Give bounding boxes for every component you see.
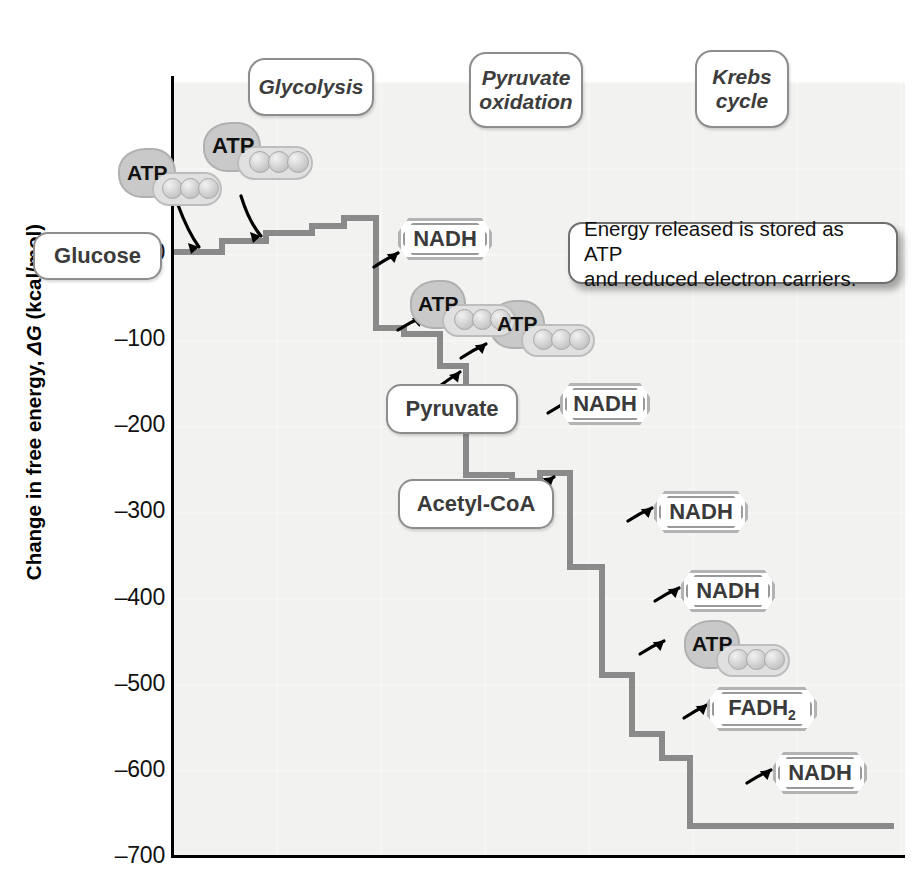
substrate-label-acetyl-coa: Acetyl-CoA xyxy=(398,479,554,529)
plot-background xyxy=(172,82,905,855)
callout-line-1: Energy released is stored as ATP xyxy=(584,217,844,265)
phase-label-krebs-cycle: Krebs cycle xyxy=(695,50,789,128)
y-tick-100: –100 xyxy=(115,325,165,352)
y-tick-400: –400 xyxy=(115,584,165,611)
callout-line-2: and reduced electron carriers. xyxy=(584,267,856,290)
atp-phosphate xyxy=(764,649,785,670)
phase-label-glycolysis: Glycolysis xyxy=(248,58,374,116)
y-tick-600: –600 xyxy=(115,756,165,783)
carrier-nadh-1: NADH xyxy=(398,218,492,260)
carrier-nadh-5: NADH xyxy=(773,752,867,794)
atp-label-2: ATP xyxy=(212,133,254,159)
y-tick-300: –300 xyxy=(115,497,165,524)
carrier-nadh-2: NADH xyxy=(560,383,650,425)
carrier-nadh-5-text: NADH xyxy=(788,760,852,786)
callout-box: Energy released is stored as ATP and red… xyxy=(568,222,898,284)
phase-label-pyruvate-oxidation: Pyruvate oxidation xyxy=(469,52,583,128)
phase-krebs-line1: Krebs xyxy=(712,65,772,89)
substrate-acetylcoa-text: Acetyl-CoA xyxy=(417,492,536,517)
y-tick-700: –700 xyxy=(115,842,165,869)
atp-label-1: ATP xyxy=(127,161,167,185)
carrier-nadh-4: NADH xyxy=(681,570,775,612)
phase-pyruvate-line2: oxidation xyxy=(479,90,572,114)
phase-glycolysis-text: Glycolysis xyxy=(258,75,363,99)
carrier-fadh2-text: FADH2 xyxy=(728,695,796,723)
y-tick-500: –500 xyxy=(115,670,165,697)
atp-label-5: ATP xyxy=(692,632,732,656)
substrate-label-glucose: Glucose xyxy=(33,232,162,280)
atp-phosphate xyxy=(569,329,590,350)
y-tick-200: –200 xyxy=(115,411,165,438)
substrate-label-pyruvate: Pyruvate xyxy=(386,384,518,434)
atp-label-4: ATP xyxy=(497,312,537,336)
atp-phosphate xyxy=(198,178,219,199)
atp-molecule-5: ATP xyxy=(684,620,799,682)
carrier-fadh2: FADH2 xyxy=(707,687,817,731)
atp-molecule-2: ATP xyxy=(203,122,318,184)
callout-text: Energy released is stored as ATP and red… xyxy=(584,216,882,291)
carrier-nadh-3-text: NADH xyxy=(669,499,733,525)
carrier-nadh-1-text: NADH xyxy=(413,226,477,252)
atp-label-3: ATP xyxy=(418,292,458,316)
phase-krebs-line2: cycle xyxy=(716,89,769,113)
carrier-nadh-2-text: NADH xyxy=(573,391,637,417)
atp-phosphate xyxy=(287,151,309,173)
carrier-nadh-4-text: NADH xyxy=(696,578,760,604)
substrate-pyruvate-text: Pyruvate xyxy=(406,397,499,422)
carrier-nadh-3: NADH xyxy=(654,491,748,533)
energy-diagram: 0 –100 –200 –300 –400 –500 –600 –700 Cha… xyxy=(0,0,914,883)
x-axis-line xyxy=(171,855,905,858)
phase-pyruvate-line1: Pyruvate xyxy=(482,66,571,90)
substrate-glucose-text: Glucose xyxy=(54,244,141,269)
